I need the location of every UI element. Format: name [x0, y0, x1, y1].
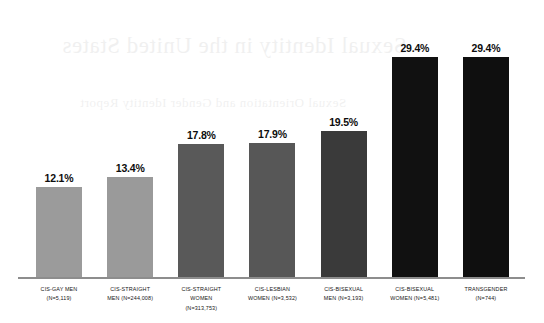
bar-value-label: 17.9% [258, 129, 287, 140]
category-label: CIS-STRAIGHTWOMEN(N=313,753) [168, 285, 234, 313]
category-label-line: CIS-BISEXUAL [311, 285, 377, 294]
bar-group: 29.4% [453, 8, 519, 278]
bar-rect[interactable] [463, 57, 509, 278]
x-axis-baseline [18, 277, 525, 279]
category-label-line: TRANSGENDER [453, 285, 519, 294]
bar-rect[interactable] [36, 187, 82, 278]
category-label-line: MEN (N=244,008) [97, 294, 163, 303]
bar-group: 29.4% [382, 8, 448, 278]
bar-value-label: 13.4% [116, 163, 145, 174]
category-label-line: WOMEN (N=5,481) [382, 294, 448, 303]
category-labels-container: CIS-GAY MEN(N=5,119) CIS-STRAIGHTMEN (N=… [20, 285, 525, 313]
bar-value-label: 12.1% [45, 173, 74, 184]
bar-value-label: 17.8% [187, 130, 216, 141]
category-label-line: CIS-GAY MEN [26, 285, 92, 294]
bar-rect[interactable] [107, 177, 153, 278]
plot-area: 12.1% 13.4% 17.8% 17.9% 19.5% 29.4% [20, 8, 525, 278]
category-label-line: CIS-LESBIAN [239, 285, 305, 294]
category-label-line: WOMEN (N=3,532) [239, 294, 305, 303]
category-label-line: CIS-BISEXUAL [382, 285, 448, 294]
bar-rect[interactable] [321, 131, 367, 278]
bar-rect[interactable] [249, 143, 295, 278]
bar-group: 19.5% [311, 8, 377, 278]
category-label-line: MEN (N=3,193) [311, 294, 377, 303]
category-label-line: (N=313,753) [168, 304, 234, 313]
bar-value-label: 29.4% [400, 43, 429, 54]
bar-group: 12.1% [26, 8, 92, 278]
category-label-line: CIS-STRAIGHT [97, 285, 163, 294]
bar-group: 13.4% [97, 8, 163, 278]
category-label: CIS-STRAIGHTMEN (N=244,008) [97, 285, 163, 313]
category-label-line: WOMEN [168, 294, 234, 303]
bar-value-label: 29.4% [472, 43, 501, 54]
category-label: CIS-BISEXUALWOMEN (N=5,481) [382, 285, 448, 313]
bar-rect[interactable] [392, 57, 438, 278]
category-label: TRANSGENDER(N=744) [453, 285, 519, 313]
bar-group: 17.9% [239, 8, 305, 278]
category-label: CIS-GAY MEN(N=5,119) [26, 285, 92, 313]
category-label: CIS-LESBIANWOMEN (N=3,532) [239, 285, 305, 313]
bar-rect[interactable] [178, 144, 224, 278]
category-label-line: (N=5,119) [26, 294, 92, 303]
bar-group: 17.8% [168, 8, 234, 278]
category-label-line: (N=744) [453, 294, 519, 303]
bar-value-label: 19.5% [329, 117, 358, 128]
bar-chart-figure: Sexual Identity in the United States Sex… [0, 0, 544, 323]
category-label-line: CIS-STRAIGHT [168, 285, 234, 294]
bars-container: 12.1% 13.4% 17.8% 17.9% 19.5% 29.4% [20, 8, 525, 278]
category-label: CIS-BISEXUALMEN (N=3,193) [311, 285, 377, 313]
